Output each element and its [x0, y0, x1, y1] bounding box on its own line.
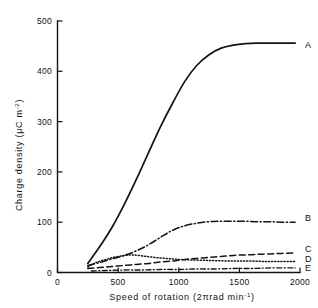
x-tick-labels: 0 500 1000 1500 2000 — [55, 277, 310, 287]
series-label-e: E — [305, 263, 311, 273]
series-line-e — [91, 268, 295, 271]
x-tick-label: 0 — [55, 277, 60, 287]
x-axis-title-main: Speed of rotation (2 — [109, 292, 202, 302]
x-axis-title-rad: rad min — [209, 292, 244, 302]
line-chart-svg: 0 100 200 300 400 500 0 500 1000 1500 20… — [0, 0, 318, 308]
x-axis-title-close: ) — [251, 292, 255, 302]
pi-symbol: π — [202, 292, 209, 302]
series-line-a — [88, 43, 295, 263]
x-tick-label: 2000 — [290, 277, 310, 287]
x-axis-title: Speed of rotation (2πrad min-1) — [109, 292, 254, 303]
y-tick-label: 0 — [47, 268, 52, 278]
x-axis-title-exponent: -1 — [244, 292, 251, 298]
series-label-a: A — [305, 40, 311, 50]
x-tick-label: 1000 — [169, 277, 189, 287]
x-tick-label: 1500 — [229, 277, 249, 287]
y-tick-label: 400 — [37, 66, 52, 76]
y-tick-label: 200 — [37, 167, 52, 177]
series-label-b: B — [305, 213, 311, 223]
y-tick-label: 100 — [37, 217, 52, 227]
y-axis-title-exponent: -2 — [14, 103, 20, 110]
y-axis-title-unit: C m — [14, 109, 24, 128]
y-axis-title: Charge density (μC m-2) — [14, 99, 25, 211]
chart-figure: 0 100 200 300 400 500 0 500 1000 1500 20… — [0, 0, 318, 308]
series-label-c: C — [305, 244, 312, 254]
y-tick-label: 500 — [37, 16, 52, 26]
y-tick-labels: 0 100 200 300 400 500 — [37, 16, 52, 278]
y-axis-title-main: Charge density ( — [14, 134, 24, 211]
y-axis-ticks — [58, 21, 63, 273]
chart-axes — [58, 21, 301, 273]
y-tick-label: 300 — [37, 117, 52, 127]
y-axis-title-close: ) — [14, 99, 24, 103]
series-labels: A B C D E — [305, 40, 312, 273]
x-tick-label: 500 — [111, 277, 126, 287]
